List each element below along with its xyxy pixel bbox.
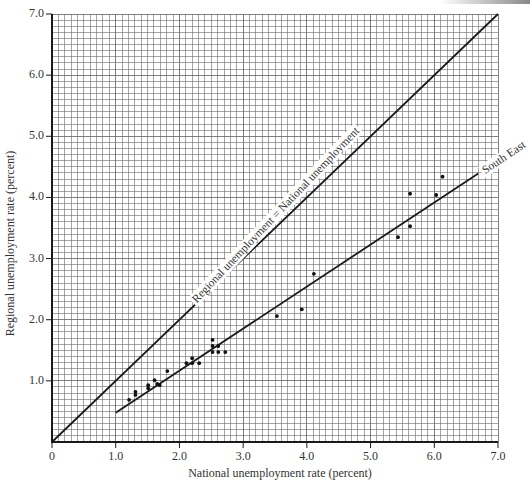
data-point — [211, 338, 215, 342]
data-point — [134, 393, 138, 397]
data-point — [216, 344, 220, 348]
chart-plot — [0, 0, 530, 487]
data-point — [155, 382, 159, 386]
data-point — [190, 361, 194, 365]
data-point — [216, 350, 220, 354]
x-tick-label: 3.0 — [223, 449, 263, 464]
data-point — [441, 175, 445, 179]
x-tick-label: 4.0 — [287, 449, 327, 464]
x-tick-label: 0 — [32, 449, 72, 464]
y-axis-title: Regional unemployment rate (percent) — [3, 144, 18, 344]
y-tick-label: 7.0 — [4, 6, 44, 21]
y-tick-label: 5.0 — [4, 128, 44, 143]
x-tick-label: 7.0 — [478, 449, 518, 464]
data-point — [211, 350, 215, 354]
x-tick-label: 6.0 — [414, 449, 454, 464]
data-point — [396, 235, 400, 239]
data-point — [223, 350, 227, 354]
data-point — [153, 378, 157, 382]
data-point — [185, 361, 189, 365]
y-tick-label: 1.0 — [4, 373, 44, 388]
data-point — [408, 192, 412, 196]
data-point — [434, 193, 438, 197]
data-point — [211, 344, 215, 348]
y-tick-label: 6.0 — [4, 67, 44, 82]
x-tick-label: 1.0 — [96, 449, 136, 464]
data-point — [312, 272, 316, 276]
x-tick-label: 5.0 — [351, 449, 391, 464]
data-point — [190, 356, 194, 360]
data-point — [127, 398, 131, 402]
data-point — [146, 386, 150, 390]
data-point — [165, 369, 169, 373]
data-point — [197, 361, 201, 365]
x-axis-title: National unemployment rate (percent) — [180, 466, 380, 481]
data-point — [408, 224, 412, 228]
data-point — [300, 307, 304, 311]
data-point — [275, 314, 279, 318]
x-tick-label: 2.0 — [159, 449, 199, 464]
